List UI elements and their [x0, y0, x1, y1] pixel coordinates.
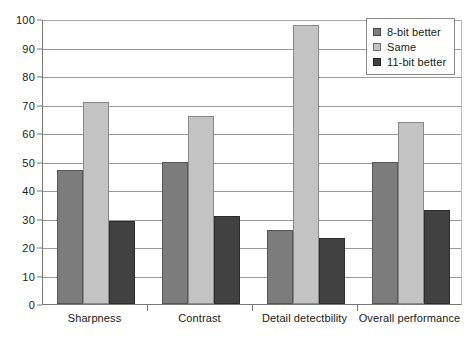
legend-swatch-11bit-better: [373, 58, 381, 66]
x-axis-tick-mark: [357, 305, 358, 311]
bar[interactable]: [188, 116, 214, 304]
bar[interactable]: [109, 221, 135, 304]
y-axis-tick-label: 60: [22, 128, 35, 140]
y-axis-tick-label: 30: [22, 214, 35, 226]
x-axis-tick-mark: [147, 305, 148, 311]
x-axis-category-label: Sharpness: [68, 312, 122, 324]
y-axis-tick-label: 50: [22, 157, 35, 169]
legend-label: 8-bit better: [387, 26, 441, 38]
y-axis-tick-label: 80: [22, 71, 35, 83]
bar[interactable]: [424, 210, 450, 304]
x-axis-category-label: Overall performance: [359, 312, 461, 324]
bar-group: [253, 20, 358, 304]
bar[interactable]: [267, 230, 293, 304]
x-axis-category-label: Contrast: [178, 312, 220, 324]
legend: 8-bit better Same 11-bit better: [366, 18, 455, 75]
bar[interactable]: [319, 238, 345, 304]
x-axis-category-label: Detail detectbility: [262, 312, 347, 324]
bar-group: [43, 20, 148, 304]
legend-item[interactable]: 8-bit better: [373, 24, 446, 39]
bar-group: [148, 20, 253, 304]
x-axis-tick-mark: [252, 305, 253, 311]
bar[interactable]: [162, 162, 188, 305]
x-axis-category-ticks: [42, 305, 462, 311]
y-axis-tick-label: 70: [22, 100, 35, 112]
y-axis-tick-label: 10: [22, 271, 35, 283]
legend-item[interactable]: Same: [373, 39, 446, 54]
bar[interactable]: [57, 170, 83, 304]
bar[interactable]: [372, 162, 398, 305]
legend-swatch-8bit-better: [373, 28, 381, 36]
y-axis-tick-label: 40: [22, 185, 35, 197]
legend-item[interactable]: 11-bit better: [373, 54, 446, 69]
legend-label: 11-bit better: [387, 56, 446, 68]
y-axis-tick-label: 0: [29, 299, 35, 311]
y-axis-tick-label: 20: [22, 242, 35, 254]
bar[interactable]: [293, 25, 319, 304]
x-axis-labels: SharpnessContrastDetail detectbilityOver…: [42, 312, 462, 334]
bar[interactable]: [83, 102, 109, 304]
legend-swatch-same: [373, 43, 381, 51]
legend-label: Same: [387, 41, 416, 53]
y-axis-tick-label: 90: [22, 43, 35, 55]
bar[interactable]: [398, 122, 424, 304]
bar[interactable]: [214, 216, 240, 304]
y-axis: 0102030405060708090100: [0, 20, 42, 305]
y-axis-tick-label: 100: [16, 14, 35, 26]
bar-chart: 0102030405060708090100 SharpnessContrast…: [0, 0, 468, 347]
